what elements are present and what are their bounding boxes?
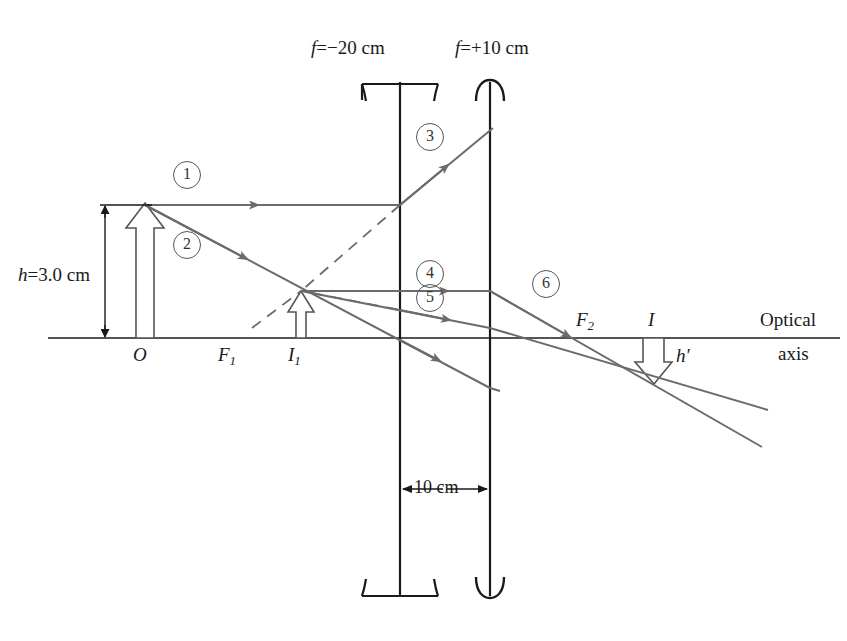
intermediate-image-label: I1 — [288, 345, 301, 368]
f-equals-1: = — [316, 37, 327, 58]
f-value-2: +10 cm — [471, 37, 529, 58]
ray-3-virtual-dashed — [301, 205, 400, 291]
image-height-label: h′ — [676, 346, 690, 365]
ray-number-1: 1 — [173, 161, 201, 189]
f-value-1: −20 cm — [327, 37, 385, 58]
h-symbol: h — [18, 264, 28, 285]
ray-number-3: 3 — [416, 123, 444, 151]
ray-number-5: 5 — [416, 284, 444, 312]
h-prime-symbol: h — [676, 345, 686, 366]
h-value: 3.0 cm — [38, 264, 90, 285]
optical-axis-label-bottom: axis — [778, 344, 809, 363]
optical-axis-label-top: Optical — [760, 310, 816, 329]
focal-point-2-label: F2 — [576, 310, 594, 333]
ray-diagram-svg — [0, 0, 847, 641]
lens-separation-label: 10 cm — [414, 478, 459, 496]
f-equals-2: = — [460, 37, 471, 58]
F1-subscript: 1 — [230, 353, 236, 368]
I1-subscript: 1 — [294, 353, 300, 368]
focal-length-lens2-label: f=+10 cm — [455, 38, 529, 57]
converging-lens — [476, 80, 504, 598]
object-arrow — [126, 203, 164, 338]
F1-symbol: F — [218, 344, 230, 365]
ray-2-arrowhead-b — [400, 340, 440, 361]
object-height-label: h=3.0 cm — [18, 265, 90, 284]
ray-3-arrowhead — [400, 165, 448, 205]
F2-symbol: F — [576, 309, 588, 330]
h-prime-mark: ′ — [686, 345, 690, 366]
ray-number-6: 6 — [532, 270, 560, 298]
ray-5-arrowhead — [400, 310, 450, 320]
figure-canvas: f=−20 cm f=+10 cm h=3.0 cm O F1 I1 F2 I … — [0, 0, 847, 641]
focal-length-lens1-label: f=−20 cm — [311, 38, 385, 57]
F2-subscript: 2 — [588, 318, 594, 333]
focal-point-1-label: F1 — [218, 345, 236, 368]
ray-2-continued — [490, 388, 500, 391]
final-image-label: I — [648, 310, 654, 329]
ray-6-arrowhead — [490, 291, 570, 337]
ray-number-2: 2 — [173, 231, 201, 259]
h-equals: = — [28, 264, 39, 285]
intermediate-image-arrow — [288, 291, 314, 338]
ray-final-lower — [490, 328, 768, 410]
object-point-label: O — [133, 345, 147, 364]
